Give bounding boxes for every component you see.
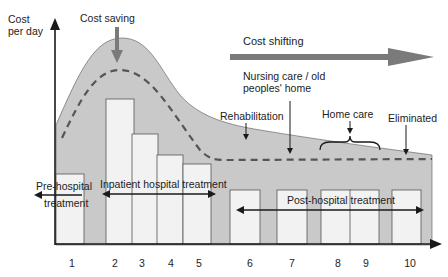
eliminated-label: Eliminated (388, 112, 437, 124)
y-axis-label: Cost per day (8, 13, 43, 37)
rehabilitation-label: Rehabilitation (220, 110, 284, 122)
cost-shifting-label: Cost shifting (243, 35, 304, 47)
pre-hospital-label: Pre-hospital (36, 180, 92, 192)
x-tick-4: 4 (161, 257, 181, 269)
post-hospital-label: Post-hospital treatment (287, 194, 395, 206)
home-care-label: Home care (322, 108, 373, 120)
pre-hospital-arrow-icon (34, 191, 42, 199)
x-axis-arrow-icon (430, 239, 442, 249)
nursing-care-label: Nursing care / old peoples' home (243, 70, 325, 94)
x-tick-2: 2 (105, 257, 125, 269)
pre-hospital-label-2: treatment (44, 197, 88, 209)
x-tick-6: 6 (240, 257, 260, 269)
y-label-line2: per day (8, 25, 43, 37)
x-tick-1: 1 (62, 257, 82, 269)
x-tick-8: 8 (328, 257, 348, 269)
x-tick-3: 3 (132, 257, 152, 269)
inpatient-label: Inpatient hospital treatment (100, 178, 227, 190)
y-axis-arrow-icon (50, 18, 60, 30)
x-tick-9: 9 (356, 257, 376, 269)
x-tick-10: 10 (400, 257, 420, 269)
cost-saving-label: Cost saving (80, 12, 135, 24)
x-tick-7: 7 (282, 257, 302, 269)
cost-diagram (0, 0, 448, 277)
x-tick-5: 5 (189, 257, 209, 269)
cost-shifting-arrow-icon (388, 48, 434, 66)
y-label-line1: Cost (8, 13, 43, 25)
